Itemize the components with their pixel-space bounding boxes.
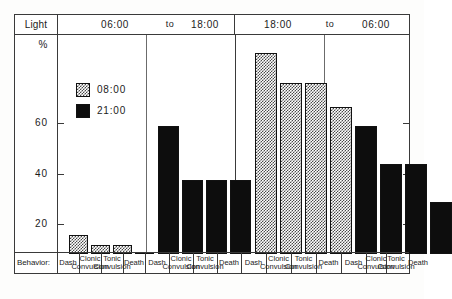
beh-label-g4-tonic: TonicConvulsion (386, 253, 406, 273)
period-2-end: 06:00 (345, 15, 407, 34)
period-1-end: 18:00 (175, 15, 235, 34)
light-header-label: Light (15, 15, 57, 34)
y-tick-label-60: 60 (35, 118, 48, 128)
legend-swatch-solid-icon (76, 104, 90, 118)
bar-g3-clonic (280, 83, 302, 254)
behavior-axis-title: Behavior: (17, 253, 57, 273)
beh-label-g1-tonic: TonicConvulsion (101, 253, 123, 273)
y-tick-mark-20 (58, 224, 64, 225)
y-tick-label-20: 20 (35, 219, 48, 229)
chart-frame: Light 06:00 to 18:00 18:00 to 06:00 % 60… (14, 14, 410, 274)
legend-label-0800: 08:00 (97, 84, 126, 95)
group-divider-1-2 (146, 35, 147, 254)
beh-label-g3-death: Death (316, 253, 341, 273)
legend-swatch-hatch-icon (76, 83, 90, 97)
y-tick-mark-right-60 (403, 123, 409, 124)
period-2-start: 18:00 (243, 15, 313, 34)
beh-label-g3-tonic: TonicConvulsion (291, 253, 316, 273)
bar-g2-clonic (182, 180, 203, 254)
y-tick-mark-40 (58, 174, 64, 175)
beh-label-g1-death: Death (123, 253, 145, 273)
bar-g4-dash (355, 126, 377, 254)
beh-label-g4-death: Death (406, 253, 430, 273)
beh-text: Death (124, 259, 144, 268)
period-1-start: 06:00 (65, 15, 165, 34)
legend-label-2100: 21:00 (97, 105, 126, 116)
bar-g4-tonic (405, 164, 427, 254)
plot-area: 08:00 21:00 (57, 35, 409, 254)
y-tick-mark-60 (58, 123, 64, 124)
beh-text: Death (219, 259, 239, 268)
bar-g4-death (430, 202, 452, 254)
legend-entry-0800: 08:00 (76, 81, 126, 98)
bar-g3-dash (255, 53, 277, 254)
bar-g3-death (330, 107, 352, 254)
legend: 08:00 21:00 (76, 81, 126, 123)
beh-label-g2-tonic: TonicConvulsion (193, 253, 217, 273)
bar-g4-clonic (380, 164, 402, 254)
beh-text: Death (408, 259, 428, 268)
y-tick-label-40: 40 (35, 169, 48, 179)
bar-g2-tonic (206, 180, 227, 254)
bar-g2-death (230, 180, 251, 254)
y-axis-unit-label: % (39, 39, 48, 50)
header-divider-axis (57, 15, 58, 34)
light-period-header: Light 06:00 to 18:00 18:00 to 06:00 (15, 15, 409, 35)
bar-g2-dash (158, 126, 179, 254)
behavior-axis: Behavior: Dash ClonicConvulsion TonicCon… (15, 252, 409, 273)
beh-label-g2-death: Death (217, 253, 241, 273)
period-2-connector: to (315, 15, 345, 34)
legend-entry-2100: 21:00 (76, 102, 126, 119)
beh-text: Death (318, 259, 338, 268)
y-axis: % 60 40 20 (15, 35, 57, 254)
bar-g3-tonic (305, 83, 327, 254)
